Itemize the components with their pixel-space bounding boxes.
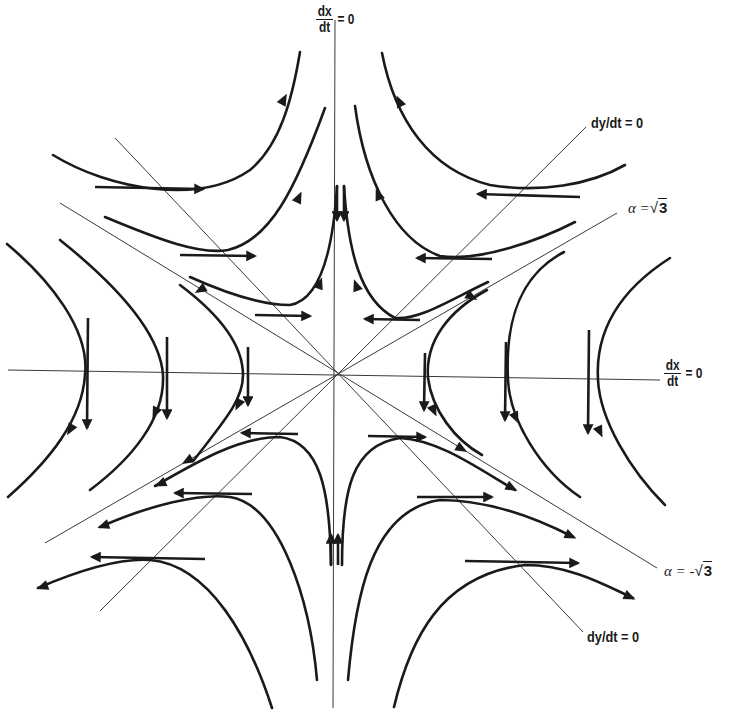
trajectory-top-right-middle — [355, 106, 575, 257]
vec-bl-middle-arrow-icon — [175, 493, 252, 494]
trajectory-right-outer — [598, 258, 670, 505]
alpha-lhs: α = - — [664, 563, 695, 579]
sqrt-icon: √ — [650, 199, 658, 216]
vec-l-outer-arrow-icon — [87, 318, 88, 428]
trajectory-right-middle — [508, 252, 580, 497]
trajectory-top-left-middle — [105, 108, 325, 251]
vec-tl-inner-arrow-icon — [255, 315, 310, 316]
nullcline-and-separatrix-lines — [8, 20, 660, 708]
fraction-denominator: dt — [667, 374, 678, 389]
vec-br-outer-arrow-icon — [465, 561, 578, 563]
fraction-dxdt: dx dt — [316, 4, 333, 34]
vec-bl-outer-arrow-icon — [92, 557, 205, 559]
alpha-value: 3 — [703, 561, 712, 579]
arrow-bl-outer-curve-arrowhead-icon — [35, 580, 50, 594]
alpha-value: 3 — [658, 198, 667, 216]
trajectory-right-inner — [428, 290, 487, 455]
fraction-dxdt: dx dt — [664, 358, 681, 388]
alpha-lhs: α = — [628, 200, 650, 216]
vec-r-outer-arrow-icon — [588, 330, 589, 433]
alpha-neg-sqrt3-line — [60, 203, 657, 568]
vec-tr-inner-arrow-icon — [365, 319, 420, 320]
fraction-denominator: dt — [319, 20, 330, 35]
trajectories — [7, 52, 670, 708]
trajectory-bottom-left-outer — [38, 560, 272, 708]
trajectory-arrowheads — [35, 91, 638, 604]
vec-r-inner-arrow-icon — [424, 353, 425, 410]
label-dydt-zero-top: dy/dt = 0 — [591, 114, 643, 131]
phase-portrait-canvas — [0, 0, 735, 721]
fraction-numerator: dx — [316, 4, 333, 20]
arrow-tl-middle-curve-arrowhead-icon — [292, 189, 306, 204]
vec-r-middle-arrow-icon — [505, 342, 506, 420]
label-dydt-zero-bottom: dy/dt = 0 — [587, 628, 639, 645]
equals-zero: = 0 — [338, 11, 355, 27]
arrow-r-middle-curve-arrowhead-icon — [509, 410, 523, 425]
vec-tl-outer-arrow-icon — [95, 187, 203, 189]
arrow-bl-middle-curve-arrowhead-icon — [96, 519, 111, 533]
label-dxdt-zero-right: dx dt = 0 — [664, 358, 702, 388]
vertical-axis-dxdt-zero — [333, 20, 335, 708]
vec-tl-middle-arrow-icon — [180, 255, 255, 256]
sqrt-icon: √ — [695, 562, 703, 579]
trajectory-top-left-outer — [53, 52, 300, 190]
fraction-numerator: dx — [664, 358, 681, 374]
label-dxdt-zero-top: dx dt = 0 — [316, 4, 354, 34]
equals-zero: = 0 — [686, 365, 703, 381]
vec-tr-middle-arrow-icon — [417, 258, 492, 259]
arrow-r-outer-curve-arrowhead-icon — [593, 424, 607, 439]
trajectory-top-right-outer — [382, 53, 625, 188]
vec-bl-inner-arrow-icon — [242, 433, 298, 434]
label-alpha-sqrt3: α =√3 — [628, 199, 667, 217]
trajectory-bottom-left-middle — [100, 496, 317, 680]
label-alpha-neg-sqrt3: α = -√3 — [664, 562, 712, 580]
vec-tr-outer-arrow-icon — [478, 194, 580, 197]
vec-br-inner-arrow-icon — [368, 436, 425, 437]
arrow-br-middle-curve-arrowhead-icon — [563, 529, 578, 543]
trajectory-left-middle — [60, 240, 163, 490]
arrow-br-outer-curve-arrowhead-icon — [622, 590, 637, 604]
